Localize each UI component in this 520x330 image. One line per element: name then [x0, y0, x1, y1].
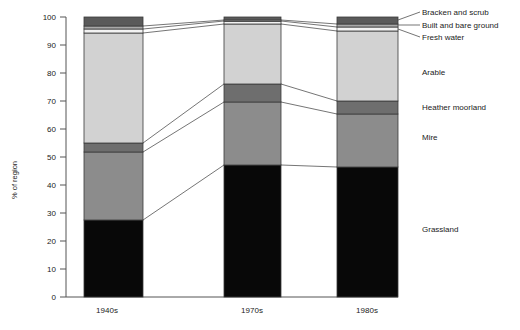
legend: Bracken and scrub Built and bare ground … — [422, 8, 499, 234]
y-tick-label-80: 80 — [47, 69, 56, 78]
segment-1970s-bracken-and-scrub — [224, 17, 281, 20]
bar-1970s — [224, 17, 281, 297]
band-grassland-1970-1980 — [281, 165, 337, 167]
legend-label-grassland: Grassland — [422, 225, 458, 234]
y-tick-label-70: 70 — [47, 97, 56, 106]
legend-label-mire: Mire — [422, 133, 438, 142]
leader-bracken-and-scrub — [398, 12, 420, 20]
y-tick-label-0: 0 — [52, 293, 57, 302]
segment-1940s-mire — [84, 152, 143, 220]
y-tick-label-50: 50 — [47, 153, 56, 162]
legend-label-heather-moorland: Heather moorland — [422, 103, 486, 112]
band-mire-1970-1980 — [281, 102, 337, 114]
y-tick-label-30: 30 — [47, 209, 56, 218]
y-axis-title: % of region — [10, 161, 19, 199]
y-tick-label-90: 90 — [47, 41, 56, 50]
segment-1980s-grassland — [337, 167, 398, 297]
segment-1980s-arable — [337, 31, 398, 101]
y-tick-label-60: 60 — [47, 125, 56, 134]
segment-1970s-grassland — [224, 165, 281, 297]
y-tick-label-10: 10 — [47, 265, 56, 274]
x-axis: 1940s 1970s 1980s — [66, 297, 398, 315]
y-tick-label-40: 40 — [47, 181, 56, 190]
y-axis: 0 10 20 30 40 50 60 70 80 90 100 % of re… — [10, 13, 66, 302]
segment-1970s-heather-moorland — [224, 84, 281, 102]
band-grassland-1940-1970 — [143, 165, 224, 220]
segment-1980s-bracken-and-scrub — [337, 17, 398, 24]
legend-label-fresh-water: Fresh water — [422, 33, 465, 42]
segment-1940s-heather-moorland — [84, 143, 143, 152]
segment-1970s-mire — [224, 102, 281, 165]
segment-1970s-arable — [224, 24, 281, 84]
leader-fresh-water — [398, 29, 420, 37]
segment-1980s-mire — [337, 114, 398, 167]
segment-1940s-built-and-bare-ground — [84, 26, 143, 29]
bar-1940s — [84, 17, 143, 297]
legend-leader-lines — [398, 12, 420, 37]
y-tick-label-20: 20 — [47, 237, 56, 246]
x-tick-label-1970s: 1970s — [241, 306, 263, 315]
segment-1940s-bracken-and-scrub — [84, 17, 143, 26]
legend-label-built-and-bare-ground: Built and bare ground — [422, 21, 499, 30]
band-heather-1940-1970 — [143, 84, 224, 143]
band-heather-1970-1980 — [281, 84, 337, 101]
band-arable-1970-1980 — [281, 24, 337, 31]
y-tick-label-100: 100 — [43, 13, 57, 22]
segment-1940s-grassland — [84, 220, 143, 297]
segment-1940s-arable — [84, 33, 143, 143]
band-mire-1940-1970 — [143, 102, 224, 152]
legend-label-arable: Arable — [422, 68, 446, 77]
segment-1940s-fresh-water — [84, 29, 143, 33]
segment-1980s-heather-moorland — [337, 101, 398, 114]
x-tick-label-1980s: 1980s — [356, 306, 378, 315]
legend-label-bracken-and-scrub: Bracken and scrub — [422, 8, 489, 17]
segment-1980s-fresh-water — [337, 27, 398, 31]
segment-1980s-built-and-bare-ground — [337, 24, 398, 27]
chart-container: 0 10 20 30 40 50 60 70 80 90 100 % of re… — [0, 0, 520, 330]
bar-1980s — [337, 17, 398, 297]
x-tick-label-1940s: 1940s — [96, 306, 118, 315]
